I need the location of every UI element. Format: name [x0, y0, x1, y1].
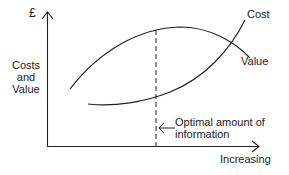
value-curve-label: Value	[241, 55, 268, 67]
y-axis-unit-label: £	[29, 7, 36, 19]
y-axis-label-line-2: and	[6, 71, 46, 83]
y-axis-label-line-1: Costs	[6, 59, 46, 71]
optimal-annotation: Optimal amount of information	[175, 116, 265, 140]
cost-curve-label: Cost	[247, 8, 270, 20]
y-axis-label: Costs and Value	[6, 59, 46, 95]
optimal-annotation-line-2: information	[175, 128, 265, 140]
y-axis-label-line-3: Value	[6, 83, 46, 95]
cost-curve	[88, 20, 245, 105]
x-axis-label: Increasing	[220, 153, 271, 165]
optimal-annotation-line-1: Optimal amount of	[175, 116, 265, 128]
value-curve	[70, 27, 250, 89]
